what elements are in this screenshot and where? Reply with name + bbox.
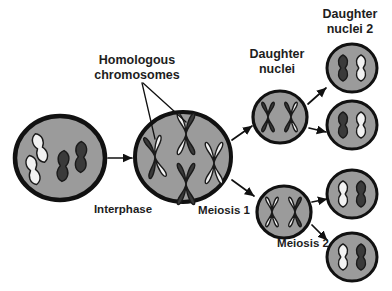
label-meiosis-1: Meiosis 1 <box>198 204 250 216</box>
label-line: Daughter <box>250 47 305 61</box>
label-line: nuclei 2 <box>327 22 374 36</box>
label-meiosis-2: Meiosis 2 <box>277 237 329 249</box>
cell-daughter-nucleus-2-b <box>327 101 377 149</box>
label-line: chromosomes <box>94 68 179 82</box>
label-line: Interphase <box>94 203 152 215</box>
cell-daughter-nucleus-2-a <box>327 44 377 92</box>
cell-daughter-nucleus-top <box>253 91 307 143</box>
label-line: Meiosis 1 <box>198 204 250 216</box>
cell-daughter-nucleus-bottom <box>257 186 311 238</box>
cell-membrane <box>253 91 307 143</box>
cell-membrane <box>257 186 311 238</box>
cell-membrane <box>327 170 377 218</box>
label-daughter-nuclei-2: Daughternuclei 2 <box>323 7 378 36</box>
label-line: Meiosis 2 <box>277 237 329 249</box>
label-line: Daughter <box>323 7 378 21</box>
cell-membrane <box>327 233 377 281</box>
cell-daughter-nucleus-2-c <box>327 170 377 218</box>
label-interphase: Interphase <box>94 203 152 215</box>
cell-meiosis1-cell <box>135 112 231 205</box>
cell-membrane <box>327 44 377 92</box>
label-homologous-chromosomes: Homologouschromosomes <box>94 53 179 82</box>
meiosis-diagram: HomologouschromosomesInterphaseMeiosis 1… <box>0 0 392 291</box>
cell-membrane <box>327 101 377 149</box>
label-line: Homologous <box>99 53 175 67</box>
diagram-canvas: HomologouschromosomesInterphaseMeiosis 1… <box>0 0 392 291</box>
cell-daughter-nucleus-2-d <box>327 233 377 281</box>
cell-interphase-cell <box>15 116 105 200</box>
label-line: nuclei <box>259 62 295 76</box>
